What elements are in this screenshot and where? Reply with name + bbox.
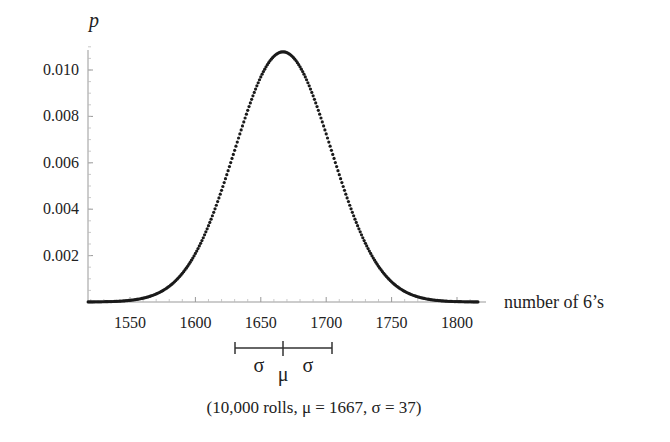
data-point	[336, 169, 339, 172]
data-point	[246, 109, 249, 112]
y-tick-label: 0.006	[43, 154, 79, 171]
data-point	[318, 113, 321, 116]
data-point	[207, 224, 210, 227]
data-point	[249, 101, 252, 104]
data-point	[359, 230, 362, 233]
data-point	[251, 94, 254, 97]
data-point	[244, 116, 247, 119]
data-point	[340, 181, 343, 184]
data-point	[259, 75, 262, 78]
data-point	[305, 78, 308, 81]
data-point	[224, 177, 227, 180]
data-point	[315, 105, 318, 108]
data-point	[314, 101, 317, 104]
data-point	[339, 177, 342, 180]
data-point	[223, 181, 226, 184]
x-axis-label: number of 6’s	[504, 292, 604, 312]
data-point	[253, 91, 256, 94]
x-tick-label: 1750	[376, 314, 408, 331]
data-point	[332, 157, 335, 160]
data-point	[199, 242, 202, 245]
data-point	[241, 124, 244, 127]
data-point	[228, 165, 231, 168]
data-point	[215, 204, 218, 207]
data-point	[357, 227, 360, 230]
data-point	[355, 221, 358, 224]
data-point	[237, 136, 240, 139]
data-point	[225, 173, 228, 176]
data-point	[317, 109, 320, 112]
x-tick-label: 1800	[441, 314, 473, 331]
data-point	[325, 132, 328, 135]
data-point	[363, 239, 366, 242]
data-point	[335, 165, 338, 168]
data-point	[360, 233, 363, 236]
x-tick-label: 1650	[245, 314, 277, 331]
data-point	[321, 120, 324, 123]
data-point	[309, 87, 312, 90]
data-point	[313, 98, 316, 101]
data-point	[211, 214, 214, 217]
y-axis-label: p	[87, 9, 99, 32]
x-tick-label: 1550	[114, 314, 146, 331]
data-point	[322, 124, 325, 127]
x-tick-label: 1600	[179, 314, 211, 331]
data-point	[247, 105, 250, 108]
data-point	[200, 239, 203, 242]
data-point	[206, 227, 209, 230]
sigma-left-label: σ	[254, 354, 265, 376]
distribution-curve	[87, 50, 480, 303]
data-point	[227, 169, 230, 172]
data-point	[308, 84, 311, 87]
data-point	[216, 200, 219, 203]
data-point	[331, 153, 334, 156]
data-point	[232, 153, 235, 156]
data-point	[242, 120, 245, 123]
data-point	[238, 132, 241, 135]
normal-distribution-plot: 0.0020.0040.0060.0080.010 15501600165017…	[0, 0, 670, 442]
data-point	[204, 230, 207, 233]
data-point	[233, 149, 236, 152]
data-point	[338, 173, 341, 176]
data-point	[348, 204, 351, 207]
data-point	[219, 193, 222, 196]
y-tick-label: 0.008	[43, 107, 79, 124]
data-point	[240, 128, 243, 131]
y-tick-label: 0.004	[43, 200, 79, 217]
data-point	[212, 211, 215, 214]
data-point	[352, 214, 355, 217]
data-point	[319, 116, 322, 119]
data-point	[203, 233, 206, 236]
data-point	[302, 73, 305, 76]
data-point	[255, 84, 258, 87]
data-point	[312, 94, 315, 97]
data-point	[329, 145, 332, 148]
data-point	[330, 149, 333, 152]
sigma-right-label: σ	[303, 354, 314, 376]
x-tick-label: 1700	[310, 314, 342, 331]
data-point	[257, 81, 260, 84]
data-point	[351, 211, 354, 214]
data-point	[221, 185, 224, 188]
data-point	[310, 91, 313, 94]
data-point	[356, 224, 359, 227]
data-point	[217, 196, 220, 199]
data-point	[343, 189, 346, 192]
data-point	[304, 75, 307, 78]
data-point	[346, 196, 349, 199]
data-point	[229, 161, 232, 164]
data-point	[349, 207, 352, 210]
data-point	[208, 221, 211, 224]
y-tick-label: 0.002	[43, 247, 79, 264]
data-point	[306, 81, 309, 84]
data-point	[254, 87, 257, 90]
data-point	[327, 140, 330, 143]
data-point	[326, 136, 329, 139]
data-point	[344, 193, 347, 196]
data-point	[334, 161, 337, 164]
y-axis-ticks: 0.0020.0040.0060.0080.010	[43, 47, 93, 291]
y-tick-label: 0.010	[43, 61, 79, 78]
data-point	[230, 157, 233, 160]
chart-caption: (10,000 rolls, μ = 1667, σ = 37)	[207, 398, 422, 417]
data-point	[347, 200, 350, 203]
